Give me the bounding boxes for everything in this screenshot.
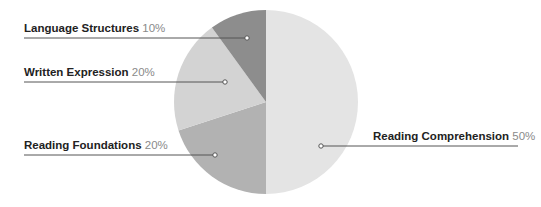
- label-reading-foundations: Reading Foundations 20%: [24, 139, 168, 151]
- label-written-expression: Written Expression 20%: [24, 66, 155, 78]
- label-name: Reading Comprehension: [373, 130, 509, 142]
- marker-written-expression: [223, 80, 227, 84]
- marker-language-structures: [245, 36, 249, 40]
- label-language-structures: Language Structures 10%: [24, 22, 165, 34]
- marker-reading-comprehension: [319, 144, 323, 148]
- label-percent: 10%: [142, 22, 165, 34]
- label-percent: 50%: [512, 130, 535, 142]
- pie-slice-reading-comprehension: [266, 10, 358, 194]
- label-percent: 20%: [132, 66, 155, 78]
- label-reading-comprehension: Reading Comprehension 50%: [373, 130, 535, 142]
- marker-reading-foundations: [213, 153, 217, 157]
- label-name: Written Expression: [24, 66, 129, 78]
- label-percent: 20%: [145, 139, 168, 151]
- label-name: Reading Foundations: [24, 139, 142, 151]
- label-name: Language Structures: [24, 22, 139, 34]
